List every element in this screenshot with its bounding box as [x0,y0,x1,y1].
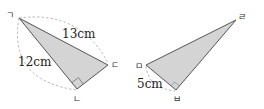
triangle-right: 5cm ㅁ ㅂ ㄹ [135,12,246,104]
vertex-label-rieul: ㄹ [238,12,246,22]
label-5cm: 5cm [137,77,163,91]
vertex-label-bieup: ㅂ [173,94,181,104]
vertex-label-digeut: ㄷ [111,60,119,70]
label-13cm: 13cm [62,27,96,41]
triangle-left: 13cm 12cm ㄱ ㄴ ㄷ [6,10,119,104]
vertex-label-nieun: ㄴ [73,94,81,104]
triangles-diagram: 13cm 12cm ㄱ ㄴ ㄷ 5cm ㅁ ㅂ ㄹ [0,0,264,109]
vertex-label-mieum: ㅁ [135,61,143,71]
label-12cm: 12cm [18,55,52,69]
vertex-label-giyeok: ㄱ [6,10,14,20]
